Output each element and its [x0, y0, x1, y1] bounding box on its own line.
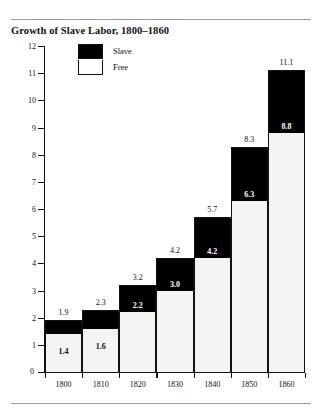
bar-segment-slave-1810[interactable]: [83, 311, 118, 330]
bar-free-label-1850: 6.3: [231, 191, 268, 199]
y-tick-label-8: 8: [0, 151, 36, 160]
x-tick-mark-7: [305, 373, 306, 378]
legend-swatch-slave-icon: [78, 44, 103, 59]
y-tick-label-3: 3: [0, 287, 36, 296]
y-tick-mark-5: [38, 236, 44, 237]
bar-free-label-1800: 1.4: [45, 348, 82, 356]
y-tick-mark-9: [38, 128, 44, 129]
x-tick-mark-3: [156, 373, 157, 378]
x-axis-label-1850: 1850: [231, 380, 268, 389]
bar-total-label-1800: 1.9: [45, 309, 82, 317]
x-tick-mark-5: [231, 373, 232, 378]
bar-stack-1860[interactable]: [268, 70, 305, 372]
bar-free-label-1840: 4.2: [194, 248, 231, 256]
legend-item-free: Free: [78, 59, 132, 75]
bar-segment-free-1830[interactable]: [157, 291, 192, 373]
y-tick-label-1: 1: [0, 341, 36, 350]
bar-column-1810[interactable]: 2.31.6: [82, 46, 119, 372]
chart-legend: Slave Free: [78, 43, 132, 75]
legend-label-free: Free: [113, 62, 128, 72]
y-tick-mark-8: [38, 155, 44, 156]
y-tick-mark-12: [38, 46, 44, 47]
y-tick-mark-6: [38, 209, 44, 210]
bar-total-label-1840: 5.7: [194, 206, 231, 214]
bar-column-1800[interactable]: 1.91.4: [45, 46, 82, 372]
x-axis-label-1840: 1840: [194, 380, 231, 389]
y-tick-mark-3: [38, 291, 44, 292]
bar-stack-1840[interactable]: [194, 217, 231, 372]
x-tick-mark-1: [82, 373, 83, 378]
y-tick-label-6: 6: [0, 205, 36, 214]
bar-free-label-1810: 1.6: [82, 343, 119, 351]
bar-column-1850[interactable]: 8.36.3: [231, 46, 268, 372]
bar-segment-free-1850[interactable]: [232, 201, 267, 372]
chart-title: Growth of Slave Labor, 1800–1860: [11, 25, 169, 36]
bar-total-label-1810: 2.3: [82, 299, 119, 307]
y-tick-label-zero: 0: [30, 367, 34, 376]
bar-column-1840[interactable]: 5.74.2: [194, 46, 231, 372]
y-tick-label-10: 10: [0, 96, 36, 105]
bar-total-label-1860: 11.1: [268, 59, 305, 67]
x-axis-label-1810: 1810: [82, 380, 119, 389]
top-divider-rule: [11, 19, 311, 20]
x-tick-mark-2: [119, 373, 120, 378]
y-tick-mark-2: [38, 318, 44, 319]
y-tick-label-5: 5: [0, 232, 36, 241]
bar-stack-1850[interactable]: [231, 147, 268, 372]
bar-free-label-1830: 3.0: [156, 281, 193, 289]
y-tick-label-12: 12: [0, 42, 36, 51]
x-axis-label-1800: 1800: [45, 380, 82, 389]
bar-stack-1820[interactable]: [119, 285, 156, 372]
bar-segment-slave-1800[interactable]: [46, 321, 81, 335]
bar-column-1820[interactable]: 3.22.2: [119, 46, 156, 372]
y-tick-label-2: 2: [0, 314, 36, 323]
y-tick-mark-7: [38, 182, 44, 183]
bar-free-label-1860: 8.8: [268, 123, 305, 131]
x-axis-label-1860: 1860: [268, 380, 305, 389]
x-axis-label-1830: 1830: [156, 380, 193, 389]
bar-segment-free-1860[interactable]: [269, 133, 304, 372]
x-tick-mark-4: [194, 373, 195, 378]
bar-column-1830[interactable]: 4.23.0: [156, 46, 193, 372]
x-axis-ticks: [45, 373, 305, 378]
bar-total-label-1830: 4.2: [156, 247, 193, 255]
bar-series-group: 1.91.42.31.63.22.24.23.05.74.28.36.311.1…: [45, 46, 305, 372]
bar-total-label-1820: 3.2: [119, 274, 156, 282]
y-tick-label-4: 4: [0, 259, 36, 268]
bar-stack-1830[interactable]: [156, 258, 193, 372]
legend-label-slave: Slave: [113, 46, 132, 56]
x-tick-mark-0: [45, 373, 46, 378]
y-tick-label-7: 7: [0, 178, 36, 187]
legend-swatch-free-icon: [78, 60, 103, 75]
bar-stack-1810[interactable]: [82, 310, 119, 372]
y-tick-mark-1: [38, 345, 44, 346]
bar-total-label-1850: 8.3: [231, 136, 268, 144]
chart-page: Growth of Slave Labor, 1800–1860 In mill…: [0, 0, 322, 417]
y-tick-mark-11: [38, 73, 44, 74]
bar-segment-free-1840[interactable]: [195, 258, 230, 372]
x-tick-mark-6: [268, 373, 269, 378]
y-tick-label-9: 9: [0, 124, 36, 133]
x-axis-label-1820: 1820: [119, 380, 156, 389]
y-tick-mark-4: [38, 263, 44, 264]
x-axis-labels: 1800181018201830184018501860: [45, 380, 305, 389]
bar-free-label-1820: 2.2: [119, 302, 156, 310]
y-tick-mark-10: [38, 100, 44, 101]
bar-segment-free-1820[interactable]: [120, 312, 155, 372]
y-tick-zero-mark: [38, 372, 44, 373]
legend-item-slave: Slave: [78, 43, 132, 59]
y-tick-label-11: 11: [0, 69, 36, 78]
bottom-divider-rule: [11, 403, 311, 404]
bar-column-1860[interactable]: 11.18.8: [268, 46, 305, 372]
